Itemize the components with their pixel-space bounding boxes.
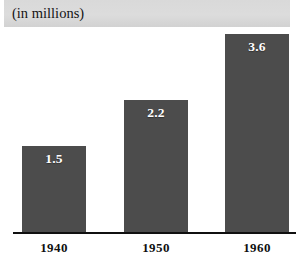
bar-1940: 1.5	[22, 146, 86, 232]
bar-value-label: 2.2	[124, 105, 188, 120]
x-tick-label-1950: 1950	[124, 240, 188, 255]
caption-band: (in millions)	[4, 0, 290, 27]
bar-value-label: 1.5	[22, 151, 86, 166]
bar-value-label: 3.6	[225, 39, 289, 54]
caption-subtitle: (in millions)	[12, 4, 84, 22]
bar-1960: 3.6	[225, 34, 289, 232]
plot-area: 1.5 2.2 3.6 1940 1950 1960	[0, 27, 305, 263]
bar-1950: 2.2	[124, 100, 188, 232]
x-tick-label-1940: 1940	[22, 240, 86, 255]
x-axis-line	[13, 232, 296, 235]
x-tick-label-1960: 1960	[225, 240, 289, 255]
bar-chart-figure: (in millions) 1.5 2.2 3.6 1940 1950 1960	[0, 0, 305, 263]
